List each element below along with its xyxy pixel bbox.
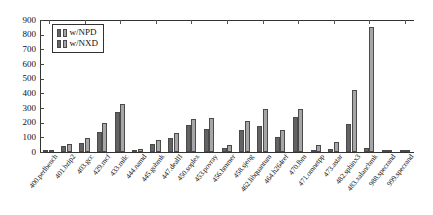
x-tick-label-8: 450.soplex [176, 153, 202, 183]
bar-wnxd-20 [405, 150, 410, 152]
y-tick-label-0: 0 [2, 148, 36, 157]
legend-item-0: w/NPD [57, 27, 98, 38]
bar-wnpd-13 [275, 137, 280, 152]
bar-wnpd-8 [186, 125, 191, 152]
bar-group [346, 20, 357, 152]
bar-wnxd-1 [67, 144, 72, 152]
bar-group [204, 20, 215, 152]
x-axis-line [40, 152, 414, 153]
bar-wnxd-4 [120, 104, 125, 152]
bar-wnxd-18 [369, 27, 374, 152]
bar-wnpd-0 [43, 150, 48, 152]
bar-wnpd-1 [61, 146, 66, 152]
x-tick-label-15: 471.omnetpp [297, 153, 327, 188]
bar-wnpd-2 [79, 143, 84, 152]
x-tick-label-1: 401.bzip2 [53, 153, 77, 180]
bar-wnxd-10 [227, 145, 232, 152]
bar-wnxd-5 [138, 149, 143, 152]
bar-group [382, 20, 393, 152]
y-tick-label-100: 100 [2, 133, 36, 142]
bar-wnxd-9 [209, 118, 214, 152]
legend-swatch-1 [57, 40, 67, 48]
x-tick-label-18: 483.xalancbmk [346, 153, 379, 193]
bar-group [275, 20, 286, 152]
x-tick-label-2: 403.gcc [75, 153, 95, 176]
bar-wnxd-15 [316, 145, 321, 152]
bar-group [115, 20, 126, 152]
bar-wnpd-19 [382, 150, 387, 152]
x-tick-label-10: 456.hmmer [211, 153, 238, 184]
legend-swatch-light-icon [63, 29, 67, 37]
bar-wnpd-5 [132, 150, 137, 152]
y-tick-label-500: 500 [2, 74, 36, 83]
bar-wnpd-16 [328, 149, 333, 152]
x-tick-label-14: 470.lbm [288, 153, 309, 177]
bar-wnpd-6 [150, 144, 155, 152]
x-tick-label-13: 464.h264ref [263, 153, 291, 185]
bar-group [150, 20, 161, 152]
bar-wnpd-17 [346, 124, 351, 152]
x-tick-label-20: 999.specrand [386, 153, 416, 188]
bar-wnxd-8 [191, 119, 196, 152]
bar-wnpd-3 [97, 132, 102, 152]
bar-group [132, 20, 143, 152]
bar-wnxd-6 [156, 140, 161, 152]
bar-wnpd-12 [257, 126, 262, 152]
legend-item-1: w/NXD [57, 38, 98, 49]
x-tick-label-4: 433.milc [109, 153, 131, 178]
bar-wnpd-4 [115, 112, 120, 152]
y-tick-label-300: 300 [2, 104, 36, 113]
bar-wnpd-9 [204, 129, 209, 152]
bar-wnpd-7 [168, 138, 173, 152]
bar-group [364, 20, 375, 152]
bar-wnpd-14 [293, 117, 298, 152]
bar-wnxd-19 [387, 150, 392, 152]
bar-wnpd-20 [400, 150, 405, 152]
x-tick-label-5: 444.namd [124, 153, 148, 180]
bar-wnxd-11 [245, 121, 250, 152]
y-tick-label-800: 800 [2, 30, 36, 39]
bar-wnpd-11 [239, 130, 244, 152]
legend-label-npd: w/NPD [70, 28, 97, 37]
bar-wnpd-10 [222, 148, 227, 152]
x-tick-label-12: 462.libquantum [239, 153, 273, 194]
x-tick-label-11: 458.sjeng [232, 153, 255, 180]
legend-swatch-dark-icon [57, 29, 61, 37]
x-tick-label-0: 400.perlbench [28, 153, 59, 190]
bar-wnxd-2 [85, 138, 90, 152]
y-tick-label-400: 400 [2, 89, 36, 98]
legend-swatch-0 [57, 29, 67, 37]
x-tick-label-17: 482.sphinx3 [334, 153, 362, 186]
x-tick-label-19: 988.specrand [368, 153, 398, 188]
x-tick-label-9: 453.povray [193, 153, 219, 184]
bar-wnxd-16 [334, 142, 339, 152]
bar-wnxd-17 [352, 90, 357, 152]
y-tick-label-900: 900 [2, 16, 36, 25]
bar-wnxd-14 [298, 109, 303, 152]
chart-legend: w/NPD w/NXD [52, 24, 104, 53]
bar-wnpd-18 [364, 148, 369, 152]
bar-group [400, 20, 411, 152]
bar-group [311, 20, 322, 152]
bar-chart: 9008007006005004003002001000 400.perlben… [0, 0, 433, 215]
bar-group [328, 20, 339, 152]
legend-label-nxd: w/NXD [70, 39, 99, 48]
x-tick-label-7: 447.dealII [160, 153, 184, 181]
bar-wnxd-13 [280, 130, 285, 152]
legend-swatch-dark-icon [57, 40, 61, 48]
y-tick-label-700: 700 [2, 45, 36, 54]
bar-wnxd-0 [49, 150, 54, 152]
legend-swatch-light-icon [63, 40, 67, 48]
bar-wnxd-12 [263, 109, 268, 152]
bar-wnxd-7 [174, 133, 179, 152]
bar-group [293, 20, 304, 152]
bar-group [186, 20, 197, 152]
bar-group [239, 20, 250, 152]
bar-group [257, 20, 268, 152]
bar-group [168, 20, 179, 152]
x-tick-label-6: 445.gobmk [140, 153, 166, 184]
bar-group [222, 20, 233, 152]
bar-wnxd-3 [102, 123, 107, 152]
bar-wnpd-15 [311, 150, 316, 152]
y-tick-label-200: 200 [2, 118, 36, 127]
